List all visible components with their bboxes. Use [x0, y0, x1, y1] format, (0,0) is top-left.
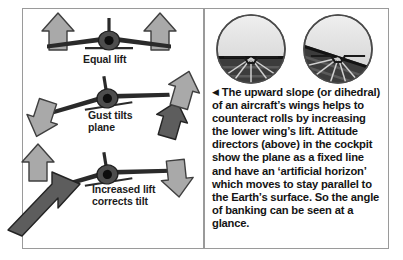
attitude-indicator-banked	[300, 11, 376, 87]
figure-page: Equal lift Gust tilts plane Increased li…	[0, 0, 403, 260]
stage-level	[42, 13, 176, 50]
attitude-director-indicators	[206, 9, 388, 87]
left-triangle-bullet: ◀	[212, 87, 219, 97]
caption-gust-tilts-plane: Gust tilts plane	[88, 110, 133, 133]
caption-equal-lift: Equal lift	[83, 54, 126, 66]
caption-increased-lift-corrects-tilt: Increased lift corrects tilt	[92, 184, 155, 207]
caption-text: The upward slope (or dihedral) of an air…	[212, 86, 380, 229]
attitude-indicator-level	[213, 11, 289, 87]
explanatory-caption: ◀ The upward slope (or dihedral) of an a…	[212, 86, 384, 230]
